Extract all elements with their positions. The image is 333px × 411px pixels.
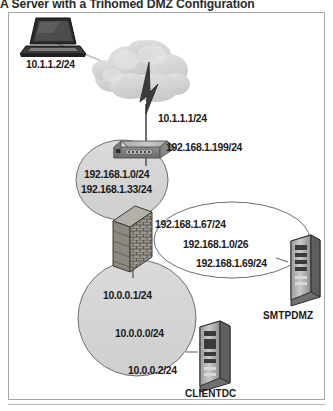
server-tower-smtpdmz-icon xyxy=(291,235,320,306)
cloud-icon xyxy=(92,40,190,102)
upper-zone-network-label: 192.168.1.0/24 xyxy=(84,170,149,180)
lower-network-zone xyxy=(78,260,196,376)
lower-zone-host-label: 10.0.0.2/24 xyxy=(128,366,177,376)
switch-ip-label: 192.168.1.199/24 xyxy=(166,143,242,153)
dmz-network-label: 192.168.1.0/26 xyxy=(183,240,248,250)
smtpdmz-hostname-label: SMTPDMZ xyxy=(263,311,313,321)
upper-zone-host-label: 192.168.1.33/24 xyxy=(81,185,152,195)
dmz-gateway-label: 192.168.1.67/24 xyxy=(155,220,226,230)
figure-page: A Server with a Trihomed DMZ Configurati… xyxy=(0,0,333,411)
clientdc-hostname-label: CLIENTDC xyxy=(185,389,236,399)
lower-zone-network-label: 10.0.0.0/24 xyxy=(115,329,164,339)
dmz-host-label: 192.168.1.69/24 xyxy=(196,259,267,269)
laptop-ip-label: 10.1.1.2/24 xyxy=(26,60,75,70)
laptop-icon xyxy=(20,18,86,57)
lower-zone-gateway-label: 10.0.0.1/24 xyxy=(103,291,152,301)
cloud-ip-label: 10.1.1.1/24 xyxy=(158,114,207,124)
server-tower-clientdc-icon xyxy=(200,321,230,392)
